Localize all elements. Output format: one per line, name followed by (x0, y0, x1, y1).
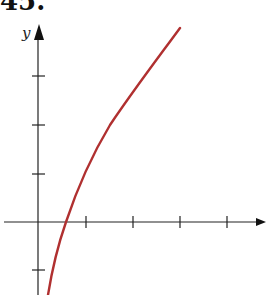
x-axis-arrow-icon (256, 218, 266, 226)
graph: y (0, 0, 266, 295)
function-curve (48, 28, 180, 295)
y-axis-label: y (21, 24, 31, 42)
y-axis-arrow-icon (34, 24, 44, 40)
